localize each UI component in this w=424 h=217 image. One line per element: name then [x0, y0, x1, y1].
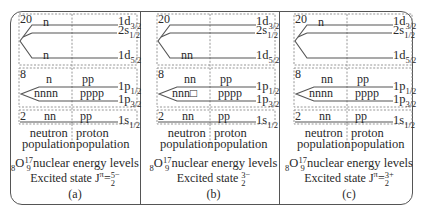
orbital-label: 1p1/2 — [118, 80, 141, 93]
orbital-label: 1d5/2 — [256, 49, 279, 62]
proton-occupancy: pp — [220, 73, 232, 85]
magic-number-8: 8 — [20, 68, 26, 80]
neutron-occupancy: n — [43, 49, 49, 61]
orbital-label: 2s1/2 — [118, 24, 140, 37]
neutron-occupancy: n — [318, 16, 324, 28]
neutron-population-label: neutronpopulation — [22, 128, 75, 150]
excited-state-label: Excited state 32− — [148, 171, 279, 187]
proton-occupancy: pp — [82, 73, 94, 85]
proton-population-label: protonpopulation — [351, 128, 404, 150]
neutron-occupancy: nn — [182, 110, 194, 122]
neutron-occupancy: nn — [44, 110, 56, 122]
panel-label: (b) — [148, 187, 279, 202]
proton-occupancy: pppp — [355, 87, 379, 99]
neutron-population-label: neutronpopulation — [160, 128, 213, 150]
orbital-label: 1s1/2 — [118, 114, 140, 127]
panel-title: 8O179nuclear energy levels — [10, 156, 140, 172]
neutron-occupancy: nnnn — [309, 87, 333, 99]
excited-state-label: Excited state Jπ=52− — [10, 171, 140, 187]
magic-number-8: 8 — [295, 68, 301, 80]
magic-number-2: 2 — [20, 110, 26, 122]
orbital-label: 2s1/2 — [393, 24, 415, 37]
magic-number-20: 20 — [295, 13, 307, 25]
proton-occupancy: pp — [80, 110, 92, 122]
neutron-occupancy: nn — [319, 110, 331, 122]
panel-title: 8O179nuclear energy levels — [148, 156, 279, 172]
orbital-label: 1p3/2 — [393, 93, 416, 106]
neutron-occupancy: n — [43, 16, 49, 28]
proton-occupancy: pp — [355, 110, 367, 122]
neutron-occupancy: n — [46, 73, 52, 85]
level-lines-20 — [158, 25, 256, 58]
orbital-label: 1d5/2 — [118, 49, 141, 62]
panel-label: (c) — [285, 187, 413, 202]
orbital-label: 1p1/2 — [393, 80, 416, 93]
orbital-label: 1p1/2 — [256, 80, 279, 93]
magic-number-2: 2 — [295, 110, 301, 122]
proton-occupancy: pppp — [218, 87, 242, 99]
neutron-occupancy: nn — [321, 73, 333, 85]
proton-population-label: protonpopulation — [76, 128, 129, 150]
magic-number-8: 8 — [158, 68, 164, 80]
level-lines-20 — [295, 25, 393, 58]
neutron-occupancy: nn — [184, 73, 196, 85]
orbital-label: 1s1/2 — [393, 114, 415, 127]
neutron-occupancy: nnnn — [34, 87, 58, 99]
orbital-label: 1p3/2 — [256, 93, 279, 106]
panel-a: 20 8 2 1d3/22s1/21d5/2 1p1/21p3/2 1s1/2 … — [10, 11, 140, 205]
orbital-label: 1d5/2 — [393, 49, 416, 62]
proton-occupancy: pp — [357, 73, 369, 85]
orbital-label: 1p3/2 — [118, 93, 141, 106]
panel-label: (a) — [10, 187, 140, 202]
neutron-population-label: neutronpopulation — [297, 128, 350, 150]
magic-number-20: 20 — [20, 13, 32, 25]
proton-occupancy: pppp — [80, 87, 104, 99]
excited-state-label: Excited state Jπ=32+ — [285, 171, 413, 187]
neutron-occupancy: nnn□ — [172, 87, 197, 99]
magic-number-20: 20 — [158, 13, 170, 25]
neutron-occupancy: nn — [181, 49, 193, 61]
proton-occupancy: pp — [218, 110, 230, 122]
orbital-label: 1s1/2 — [256, 114, 278, 127]
proton-population-label: protonpopulation — [214, 128, 267, 150]
panel-c: 20 8 2 1d3/22s1/21d5/2 1p1/21p3/2 1s1/2 … — [285, 11, 413, 205]
level-lines-20 — [20, 25, 118, 58]
magic-number-2: 2 — [158, 110, 164, 122]
orbital-label: 2s1/2 — [256, 24, 278, 37]
panel-b: 20 8 2 1d3/22s1/21d5/2 1p1/21p3/2 1s1/2 … — [148, 11, 279, 205]
